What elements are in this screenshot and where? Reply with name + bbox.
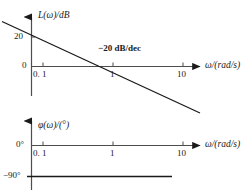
magnitude-xtick-label-10: 10 [177,70,186,79]
phase-ytick-label-0: 0° [16,140,24,149]
phase-xtick-label-10: 10 [177,149,186,158]
magnitude-ytick-label-0: 0 [22,61,27,70]
magnitude-xtick-label-0p1: 0. 1 [33,70,47,79]
bode-plot-canvas [0,0,249,193]
magnitude-x-axis-label: ω/(rad/s) [205,61,240,71]
magnitude-y-axis-label: L(ω)/dB [38,11,70,21]
bode-plot-figure: L(ω)/dB 20 0 0. 1 1 10 −20 dB/dec ω/(rad… [0,0,249,193]
phase-y-axis-label: φ(ω)/(°) [38,121,69,131]
magnitude-ytick-label-20: 20 [14,32,23,41]
phase-x-axis-label: ω/(rad/s) [205,140,240,150]
magnitude-xtick-label-1: 1 [110,70,115,79]
phase-ytick-label-minus90: −90° [3,171,21,180]
phase-xtick-label-0p1: 0. 1 [33,149,47,158]
magnitude-plot [2,17,200,113]
phase-xtick-label-1: 1 [110,149,115,158]
slope-annotation-label: −20 dB/dec [98,44,141,53]
